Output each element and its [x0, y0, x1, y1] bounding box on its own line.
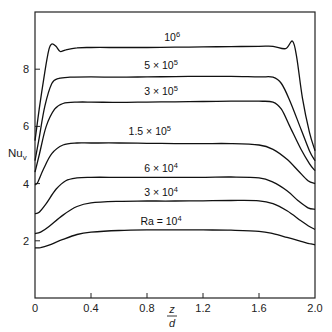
svg-text:Nuv: Nuv — [8, 147, 27, 162]
y-tick-label: 8 — [23, 63, 29, 75]
plot-frame — [35, 12, 315, 298]
y-axis-label: Nuv — [8, 147, 27, 162]
series-curve — [35, 177, 315, 214]
x-axis-label: z d — [167, 303, 177, 329]
x-tick-label: 1.2 — [195, 302, 210, 314]
y-tick-label: 4 — [23, 178, 29, 190]
series-label: 3 × 104 — [144, 185, 178, 198]
x-tick-label: 1.6 — [251, 302, 266, 314]
series-label: 106 — [164, 30, 180, 43]
series-labels: Ra = 1043 × 1046 × 1041.5 × 1053 × 1055 … — [129, 30, 182, 227]
series-curve — [35, 230, 315, 248]
y-tick-label: 6 — [23, 120, 29, 132]
series-label: 6 × 104 — [144, 161, 178, 174]
x-label-numerator: z — [168, 303, 175, 315]
series-label: 3 × 105 — [144, 84, 178, 97]
series-label: 1.5 × 105 — [129, 124, 171, 137]
series-label: 5 × 105 — [144, 58, 178, 71]
x-tick-label: 0.8 — [139, 302, 154, 314]
x-tick-label: 0 — [32, 302, 38, 314]
x-tick-label: 2.0 — [307, 302, 322, 314]
x-tick-label: 0.4 — [83, 302, 98, 314]
series-label: Ra = 104 — [140, 214, 181, 227]
nusselt-chart: 00.40.81.21.62.0 2468 Ra = 1043 × 1046 ×… — [0, 0, 332, 332]
y-tick-label: 2 — [23, 235, 29, 247]
x-label-denominator: d — [169, 317, 176, 329]
x-axis: 00.40.81.21.62.0 — [32, 293, 323, 314]
